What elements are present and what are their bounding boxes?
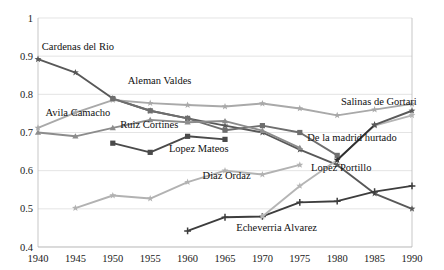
x-tick-label: 1955 (140, 253, 161, 264)
data-point-marker (110, 141, 115, 146)
data-point-marker (259, 100, 266, 107)
data-point-marker (334, 112, 341, 119)
series-annotation-label: De la madrid hurtado (307, 132, 397, 143)
data-point-marker (148, 150, 153, 155)
series-annotation-label: Salinas de Gortari (341, 96, 417, 107)
y-tick-label: 0.8 (20, 89, 33, 100)
y-tick-label: 0.6 (20, 165, 33, 176)
x-tick-label: 1950 (102, 253, 123, 264)
data-point-marker (222, 103, 229, 110)
data-point-marker (148, 108, 153, 113)
y-tick-label: 0.7 (20, 127, 33, 138)
data-point-marker (184, 101, 191, 108)
x-axis-tick-labels: 1940194519501955196019651970197519801985… (28, 253, 423, 264)
data-point-marker (260, 123, 265, 128)
data-point-marker (296, 105, 303, 112)
data-point-marker (185, 134, 190, 139)
series-annotation-label: Echeverria Alvarez (236, 222, 317, 233)
x-tick-label: 1975 (289, 253, 310, 264)
line-chart: 0.40.50.60.70.80.91 19401945195019551960… (0, 0, 444, 270)
data-point-marker (147, 100, 154, 107)
x-tick-label: 1990 (402, 253, 423, 264)
data-point-marker (184, 228, 191, 235)
y-tick-label: 0.5 (20, 203, 33, 214)
series-annotation-label: Lopez Mateos (169, 143, 229, 154)
y-tick-label: 0.4 (20, 242, 34, 253)
data-point-marker (72, 204, 79, 211)
data-point-marker (222, 137, 227, 142)
data-point-marker (409, 183, 416, 190)
x-tick-label: 1940 (28, 253, 49, 264)
x-tick-label: 1945 (65, 253, 86, 264)
x-tick-label: 1960 (177, 253, 198, 264)
x-tick-label: 1980 (327, 253, 348, 264)
series-diaz-ordaz (72, 161, 303, 211)
series-line (75, 165, 299, 208)
x-tick-label: 1965 (215, 253, 236, 264)
series-annotation-label: Cardenas del Rio (42, 41, 114, 52)
data-point-marker (147, 195, 154, 202)
data-point-marker (222, 128, 227, 133)
data-point-marker (297, 130, 302, 135)
data-point-marker (296, 161, 303, 168)
y-axis-tick-labels: 0.40.50.60.70.80.91 (20, 13, 34, 253)
series-annotations: Cardenas del RioAleman ValdesAvila Camac… (42, 41, 417, 233)
data-point-marker (109, 192, 116, 199)
data-point-marker (110, 96, 115, 101)
series-annotation-label: Aleman Valdes (128, 75, 192, 86)
series-annotation-label: Avila Camacho (45, 107, 110, 118)
series-annotation-label: Diaz Ordaz (203, 170, 251, 181)
series-annotation-label: Lopez Portillo (311, 162, 371, 173)
data-point-marker (259, 171, 266, 178)
y-tick-label: 1 (28, 13, 33, 24)
data-point-marker (334, 198, 341, 205)
y-tick-label: 0.9 (20, 51, 33, 62)
chart-container: 0.40.50.60.70.80.91 19401945195019551960… (0, 0, 444, 270)
x-tick-label: 1970 (252, 253, 273, 264)
series-annotation-label: Ruiz Cortines (120, 119, 178, 130)
x-tick-label: 1985 (364, 253, 385, 264)
data-point-marker (296, 199, 303, 206)
data-point-marker (222, 214, 229, 221)
